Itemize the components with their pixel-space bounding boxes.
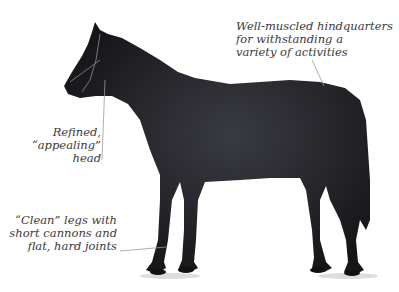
annotation-line: head: [32, 152, 101, 165]
annotation-head: Refined, “appealing” head: [32, 126, 101, 165]
annotation-hindquarters: Well-muscled hindquarters for withstandi…: [236, 20, 393, 59]
annotation-line: variety of activities: [236, 46, 393, 59]
annotation-legs: “Clean” legs with short cannons and flat…: [9, 214, 117, 253]
annotation-line: flat, hard joints: [9, 240, 117, 253]
